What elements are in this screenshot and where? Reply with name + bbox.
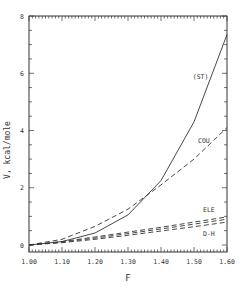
x-tick-label: 1.40 <box>153 258 169 266</box>
line-chart: 1.001.101.201.301.401.501.6002468 (ST)CO… <box>0 0 243 293</box>
plot-border <box>29 16 227 252</box>
series-label: ELE <box>203 206 215 214</box>
y-tick-label: 2 <box>20 184 24 192</box>
x-tick-label: 1.00 <box>21 258 37 266</box>
x-tick-label: 1.20 <box>87 258 103 266</box>
series-label: (ST) <box>193 73 209 81</box>
y-tick-label: 4 <box>20 127 24 135</box>
y-tick-label: 0 <box>20 242 24 250</box>
x-tick-label: 1.50 <box>186 258 202 266</box>
x-axis-label: F <box>125 273 130 283</box>
series-labels: (ST)COUELED-H <box>193 73 215 238</box>
series-label: COU <box>198 137 210 145</box>
series-label: D-H <box>203 230 215 238</box>
y-tick-label: 6 <box>20 70 24 78</box>
x-tick-label: 1.30 <box>120 258 136 266</box>
y-tick-label: 8 <box>20 13 24 21</box>
x-tick-label: 1.10 <box>54 258 70 266</box>
plot-frame <box>29 16 227 252</box>
y-axis-label: V, kcal/mole <box>3 121 12 179</box>
series-ele <box>29 217 227 245</box>
x-tick-label: 1.60 <box>219 258 235 266</box>
chart-container: 1.001.101.201.301.401.501.6002468 (ST)CO… <box>0 0 243 293</box>
